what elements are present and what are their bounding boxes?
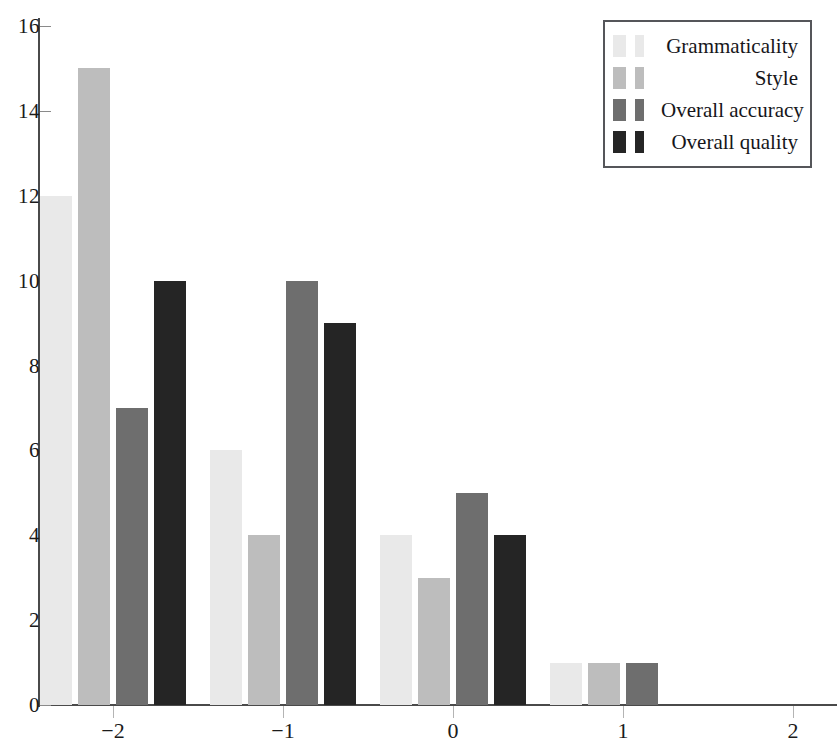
legend-swatch-wide-icon xyxy=(613,131,626,153)
bar-chart: 0246810121416 −2−1012 Grammaticality Sty… xyxy=(0,0,837,750)
legend-item: Style xyxy=(613,62,800,94)
x-tick-label: −1 xyxy=(243,718,323,744)
legend: Grammaticality Style Overall accuracy Ov… xyxy=(603,20,812,168)
x-tick-mark xyxy=(793,706,794,718)
legend-swatch-narrow-icon xyxy=(635,131,644,153)
bar xyxy=(494,535,526,705)
legend-label-style: Style xyxy=(661,66,800,91)
bar xyxy=(154,281,186,705)
x-tick-mark xyxy=(453,706,454,718)
bar xyxy=(286,281,318,705)
bar xyxy=(116,408,148,705)
legend-item: Overall quality xyxy=(613,126,800,158)
legend-swatch-style xyxy=(613,67,661,89)
bar xyxy=(324,323,356,705)
legend-label-grammaticality: Grammaticality xyxy=(661,34,800,59)
legend-swatch-narrow-icon xyxy=(635,67,644,89)
bar xyxy=(380,535,412,705)
legend-label-overall-accuracy: Overall accuracy xyxy=(661,98,806,123)
bar xyxy=(626,663,658,705)
legend-swatch-wide-icon xyxy=(613,99,626,121)
y-tick-mark xyxy=(40,705,51,706)
legend-swatch-overall-quality xyxy=(613,131,661,153)
legend-swatch-overall-accuracy xyxy=(613,99,661,121)
x-tick-label: 1 xyxy=(583,718,663,744)
x-tick-label: 0 xyxy=(413,718,493,744)
bar xyxy=(550,663,582,705)
legend-swatch-narrow-icon xyxy=(635,35,644,57)
legend-item: Grammaticality xyxy=(613,30,800,62)
bar xyxy=(588,663,620,705)
x-tick-mark xyxy=(113,706,114,718)
bar xyxy=(210,450,242,705)
bar xyxy=(456,493,488,705)
x-tick-mark xyxy=(283,706,284,718)
bar xyxy=(78,68,110,705)
bar xyxy=(248,535,280,705)
bar xyxy=(40,196,72,705)
bar xyxy=(418,578,450,705)
legend-swatch-grammaticality xyxy=(613,35,661,57)
x-tick-label: −2 xyxy=(73,718,153,744)
legend-swatch-wide-icon xyxy=(613,67,626,89)
x-tick-label: 2 xyxy=(753,718,833,744)
legend-item: Overall accuracy xyxy=(613,94,800,126)
legend-label-overall-quality: Overall quality xyxy=(661,130,800,155)
legend-swatch-wide-icon xyxy=(613,35,626,57)
legend-swatch-narrow-icon xyxy=(635,99,644,121)
x-tick-mark xyxy=(623,706,624,718)
